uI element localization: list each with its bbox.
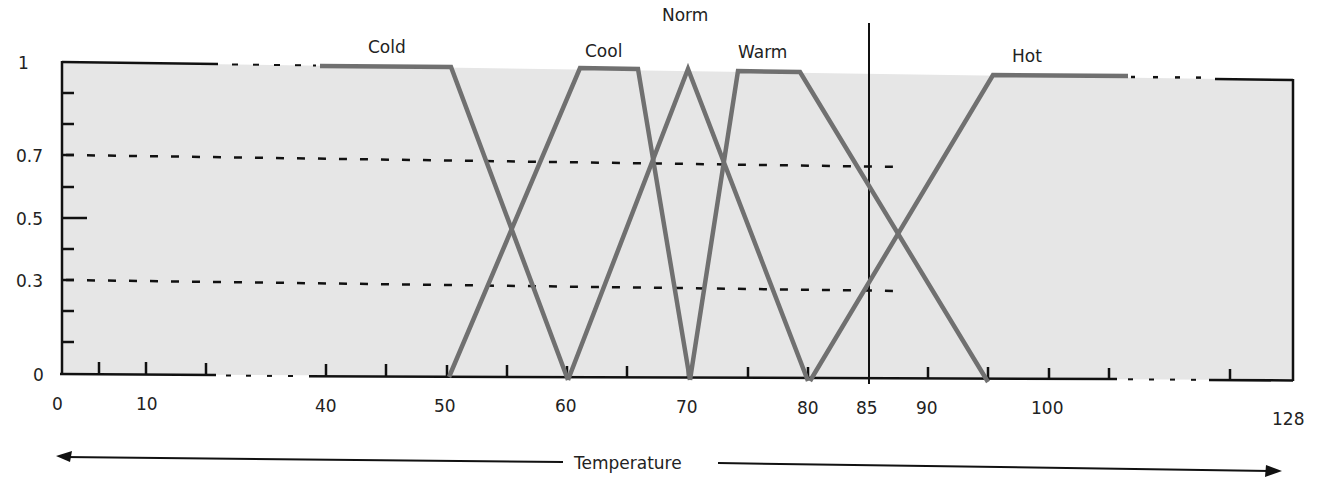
arrow-right-icon (1265, 465, 1282, 477)
y-label-0-7: 0.7 (16, 146, 43, 166)
label-cool: Cool (585, 41, 622, 61)
x-label-90: 90 (916, 398, 938, 418)
fuzzy-membership-chart: Cold Cool Norm Warm Hot 1 0.7 0.5 0.3 0 … (0, 0, 1331, 492)
x-label-0: 0 (52, 394, 63, 414)
plot-area (62, 62, 1293, 380)
y-label-1: 1 (18, 53, 29, 73)
y-label-0-5: 0.5 (16, 209, 43, 229)
x-label-80: 80 (797, 398, 819, 418)
y-label-0-3: 0.3 (16, 271, 43, 291)
x-label-100: 100 (1031, 398, 1063, 418)
x-label-10: 10 (136, 394, 158, 414)
x-label-40: 40 (315, 396, 337, 416)
label-warm: Warm (738, 42, 787, 62)
hot-break-dashes (1131, 77, 1201, 78)
x-label-50: 50 (434, 396, 456, 416)
label-hot: Hot (1012, 46, 1042, 66)
x-label-70: 70 (676, 397, 698, 417)
axis-title-temperature: Temperature (573, 453, 682, 473)
y-label-0: 0 (33, 365, 44, 385)
x-label-60: 60 (555, 396, 577, 416)
label-norm: Norm (662, 5, 708, 25)
label-cold: Cold (368, 37, 406, 57)
arrow-left-icon (56, 451, 72, 462)
x-label-128: 128 (1272, 409, 1304, 429)
x-label-85: 85 (856, 398, 878, 418)
